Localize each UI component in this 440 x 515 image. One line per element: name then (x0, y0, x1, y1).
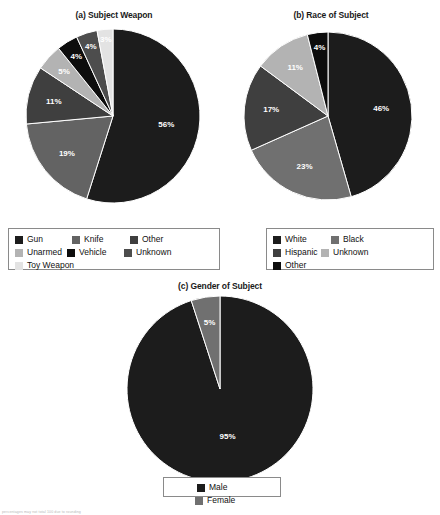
pie-slice-label-hispanic: 17% (263, 105, 279, 114)
pie-slice-label-toy-weapon: 3% (100, 35, 112, 44)
legend-b: WhiteBlackHispanicUnknownOther (266, 228, 434, 270)
legend-swatch-icon (15, 249, 23, 257)
legend-swatch-icon (273, 249, 281, 257)
pie-slice-label-other: 11% (46, 97, 62, 106)
pie-slice-label-knife: 19% (59, 149, 75, 158)
legend-swatch-icon (195, 497, 203, 505)
legend-item-other[interactable]: Other (273, 260, 325, 271)
legend-item-white[interactable]: White (273, 234, 331, 245)
legend-swatch-icon (197, 484, 205, 492)
legend-item-vehicle[interactable]: Vehicle (67, 247, 124, 258)
legend-item-black[interactable]: Black (331, 234, 383, 245)
legend-item-knife[interactable]: Knife (72, 234, 130, 245)
chart-panel-gender-of-subject: (c) Gender of Subject 95%5% MaleFemale (104, 281, 336, 507)
legend-c: MaleFemale (163, 477, 281, 497)
pie-slice-label-unarmed: 5% (58, 67, 70, 76)
pie-slice-label-male: 95% (220, 432, 236, 441)
pie-slice-label-female: 5% (204, 318, 216, 327)
pie-slice-label-unknown: 4% (85, 42, 97, 51)
legend-label: Toy Weapon (27, 260, 74, 271)
legend-swatch-icon (273, 236, 281, 244)
legend-label: Male (209, 482, 227, 493)
legend-swatch-icon (321, 249, 329, 257)
legend-label: Unarmed (27, 247, 62, 258)
legend-item-unarmed[interactable]: Unarmed (15, 247, 67, 258)
pie-chart-b: 46%23%17%11%4% (228, 23, 434, 209)
pie-chart-a: 56%19%11%5%4%4%3% (8, 23, 220, 209)
pie-chart-c: 95%5% (104, 295, 336, 483)
legend-swatch-icon (331, 236, 339, 244)
legend-label: Black (343, 234, 364, 245)
legend-item-male[interactable]: Male (197, 482, 247, 493)
legend-label: Female (207, 495, 235, 506)
legend-swatch-icon (124, 249, 132, 257)
legend-label: Unknown (136, 247, 171, 258)
legend-swatch-icon (72, 236, 80, 244)
legend-swatch-icon (15, 236, 23, 244)
pie-svg-a: 56%19%11%5%4%4%3% (8, 23, 220, 209)
legend-item-unknown[interactable]: Unknown (124, 247, 182, 258)
legend-item-toy-weapon[interactable]: Toy Weapon (15, 260, 68, 271)
pie-slice-label-unknown: 11% (287, 63, 303, 72)
legend-a: GunKnifeOtherUnarmedVehicleUnknownToy We… (8, 228, 220, 270)
legend-swatch-icon (67, 249, 75, 257)
legend-label: White (285, 234, 307, 245)
chart-panel-race-of-subject: (b) Race of Subject 46%23%17%11%4% White… (228, 10, 434, 272)
legend-item-hispanic[interactable]: Hispanic (273, 247, 321, 258)
pie-slice-label-gun: 56% (158, 120, 174, 129)
legend-label: Hispanic (285, 247, 318, 258)
chart-title-b: (b) Race of Subject (228, 10, 434, 20)
legend-label: Gun (27, 234, 43, 245)
legend-swatch-icon (273, 262, 281, 270)
legend-label: Knife (84, 234, 103, 245)
legend-swatch-icon (15, 262, 23, 270)
pie-slice-label-white: 46% (373, 104, 389, 113)
pie-slice-label-black: 23% (297, 162, 313, 171)
figure-footnote: percentages may not total 100 due to rou… (2, 510, 81, 514)
legend-swatch-icon (130, 236, 138, 244)
pie-slice-label-other: 4% (314, 43, 326, 52)
chart-title-a: (a) Subject Weapon (8, 10, 220, 20)
legend-item-gun[interactable]: Gun (15, 234, 72, 245)
pie-slice-label-vehicle: 4% (71, 52, 83, 61)
legend-label: Vehicle (79, 247, 106, 258)
chart-panel-subject-weapon: (a) Subject Weapon 56%19%11%5%4%4%3% Gun… (8, 10, 220, 272)
legend-item-unknown[interactable]: Unknown (321, 247, 379, 258)
legend-label: Other (285, 260, 306, 271)
legend-label: Unknown (333, 247, 368, 258)
chart-title-c: (c) Gender of Subject (104, 281, 336, 291)
legend-item-other[interactable]: Other (130, 234, 183, 245)
legend-item-female[interactable]: Female (195, 495, 249, 506)
pie-svg-b: 46%23%17%11%4% (228, 23, 434, 209)
pie-svg-c: 95%5% (104, 295, 336, 483)
legend-label: Other (142, 234, 163, 245)
